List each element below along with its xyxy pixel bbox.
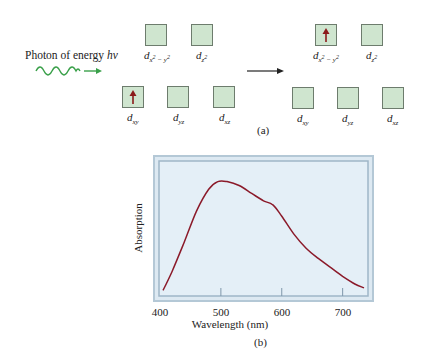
photon-label-text: Photon of energy: [25, 49, 107, 61]
label-dyz-before: dyz: [173, 111, 184, 126]
orbital-dyz-after: [337, 87, 359, 109]
electron-up-arrow-icon: [123, 87, 143, 107]
label-dyz-after: dyz: [342, 112, 353, 127]
label-dz2-before: dz2: [196, 49, 207, 64]
x-tick-400: 400: [152, 306, 169, 318]
photon-label: Photon of energy hν: [25, 49, 118, 61]
absorption-plot: [153, 155, 375, 303]
orbital-dx2y2-before: [145, 24, 167, 46]
orbital-dxy-after: [292, 87, 314, 109]
transition-arrow-icon: [246, 66, 286, 76]
label-dx2y2-after: dx2 − y2: [313, 49, 339, 64]
x-tick-700: 700: [335, 306, 352, 318]
orbital-dxy-before: [122, 86, 144, 108]
label-dxz-after: dxz: [387, 112, 398, 127]
label-dxz-before: dxz: [219, 111, 230, 126]
x-tick-500: 500: [213, 306, 230, 318]
orbital-dxz-after: [382, 87, 404, 109]
x-tick-600: 600: [274, 306, 291, 318]
x-axis-title-text: Wavelength (nm): [192, 318, 268, 330]
y-axis-title: Absorption: [132, 188, 144, 268]
orbital-dx2y2-after: [315, 24, 337, 46]
orbital-dxz-before: [213, 86, 235, 108]
orbital-dz2-after: [361, 24, 383, 46]
caption-a: (a): [257, 124, 269, 136]
label-dxy-after: dxy: [297, 112, 309, 127]
orbital-dyz-before: [167, 86, 189, 108]
photon-energy-symbol: hν: [107, 49, 118, 61]
photon-wave-icon: [34, 64, 104, 78]
label-dz2-after: dz2: [366, 49, 377, 64]
orbital-dz2-before: [191, 24, 213, 46]
label-dx2y2-before: dx2 − y2: [144, 49, 170, 64]
label-dxy-before: dxy: [127, 111, 139, 126]
caption-b: (b): [254, 336, 267, 348]
electron-up-arrow-icon: [316, 25, 336, 45]
